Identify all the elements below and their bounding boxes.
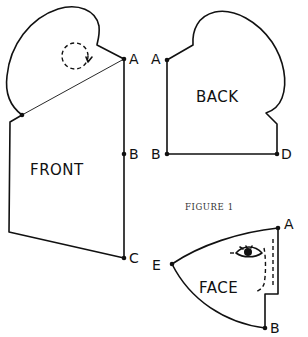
back-label-a: A bbox=[151, 51, 161, 67]
back-point-d bbox=[275, 152, 280, 157]
face-outline bbox=[172, 228, 278, 328]
ear-arrow-icon bbox=[86, 57, 92, 62]
face-piece: A E B FACE bbox=[152, 216, 294, 336]
front-label-a: A bbox=[129, 51, 139, 67]
eye-icon bbox=[230, 246, 262, 257]
figure-caption: FIGURE 1 bbox=[185, 202, 234, 212]
face-point-e bbox=[170, 262, 175, 267]
front-point-left bbox=[20, 113, 25, 118]
front-label-b: B bbox=[129, 146, 139, 162]
face-title: FACE bbox=[199, 279, 238, 297]
front-label-c: C bbox=[129, 250, 139, 266]
face-point-b bbox=[263, 326, 268, 331]
back-label-b: B bbox=[151, 146, 161, 162]
front-title: FRONT bbox=[30, 161, 84, 179]
front-point-a bbox=[122, 57, 127, 62]
face-label-b: B bbox=[270, 320, 280, 336]
face-label-e: E bbox=[152, 257, 161, 273]
back-outline bbox=[167, 11, 285, 154]
back-piece: A B D BACK bbox=[151, 11, 292, 162]
front-point-b bbox=[122, 152, 127, 157]
back-point-a bbox=[165, 58, 170, 63]
nose-guide-line bbox=[256, 239, 273, 292]
front-outline bbox=[7, 7, 124, 258]
back-label-d: D bbox=[281, 146, 292, 162]
ear-placement-circle bbox=[62, 43, 88, 69]
back-point-b bbox=[165, 152, 170, 157]
face-label-a: A bbox=[284, 216, 294, 232]
pattern-diagram: A B C FRONT A B D BACK FIGURE 1 A E B bbox=[0, 0, 308, 337]
face-point-a bbox=[276, 226, 281, 231]
front-piece: A B C FRONT bbox=[7, 7, 139, 266]
front-fold-line bbox=[22, 59, 124, 115]
front-point-c bbox=[122, 256, 127, 261]
back-title: BACK bbox=[196, 88, 239, 106]
